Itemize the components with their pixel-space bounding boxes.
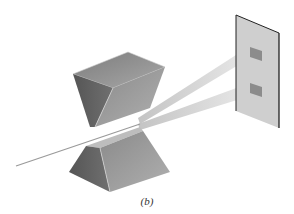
stern-gerlach-diagram	[0, 0, 294, 214]
detector-screen	[236, 15, 279, 128]
screen-plate	[236, 15, 279, 128]
figure-caption: (b)	[0, 195, 294, 207]
lower-magnet	[69, 127, 170, 192]
